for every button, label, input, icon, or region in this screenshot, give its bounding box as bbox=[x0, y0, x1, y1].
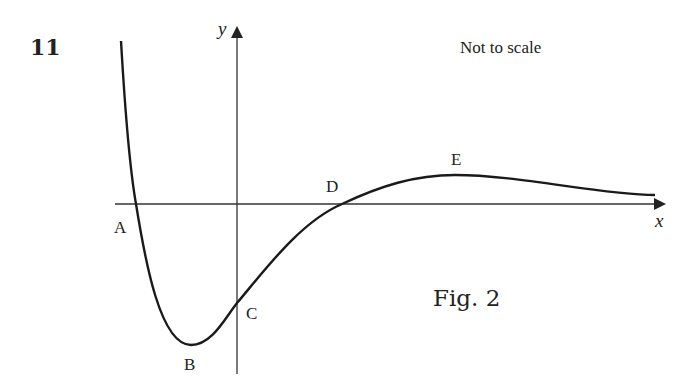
point-label-b: B bbox=[184, 355, 195, 375]
point-label-d: D bbox=[326, 177, 338, 197]
x-axis-label: x bbox=[655, 210, 663, 232]
point-label-c: C bbox=[246, 304, 257, 324]
y-axis-arrow-icon bbox=[231, 26, 243, 38]
y-axis-label: y bbox=[218, 18, 226, 40]
function-curve bbox=[121, 41, 655, 345]
point-label-a: A bbox=[114, 218, 126, 238]
figure-label: Fig. 2 bbox=[433, 285, 500, 311]
point-label-e: E bbox=[451, 150, 461, 170]
curve-diagram bbox=[0, 0, 696, 390]
x-axis-arrow-icon bbox=[654, 198, 666, 210]
